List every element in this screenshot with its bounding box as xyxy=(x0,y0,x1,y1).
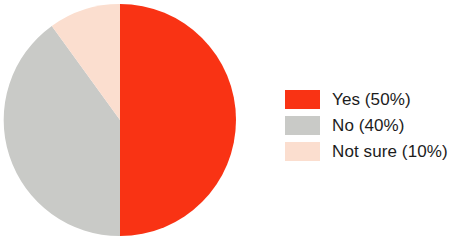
legend-label-not-sure: Not sure (10%) xyxy=(332,142,448,161)
legend-label-no: No (40%) xyxy=(332,116,405,135)
chart-legend: Yes (50%) No (40%) Not sure (10%) xyxy=(285,86,455,164)
legend-item-yes: Yes (50%) xyxy=(285,86,455,112)
pie-svg xyxy=(2,2,238,238)
legend-swatch-no xyxy=(285,116,320,135)
legend-item-not-sure: Not sure (10%) xyxy=(285,138,455,164)
pie-chart-graphic xyxy=(2,2,238,238)
pie-slice-yes xyxy=(120,4,236,236)
legend-swatch-yes xyxy=(285,90,320,109)
legend-label-yes: Yes (50%) xyxy=(332,90,411,109)
legend-swatch-not-sure xyxy=(285,142,320,161)
pie-chart-figure: Yes (50%) No (40%) Not sure (10%) xyxy=(0,0,457,245)
legend-item-no: No (40%) xyxy=(285,112,455,138)
